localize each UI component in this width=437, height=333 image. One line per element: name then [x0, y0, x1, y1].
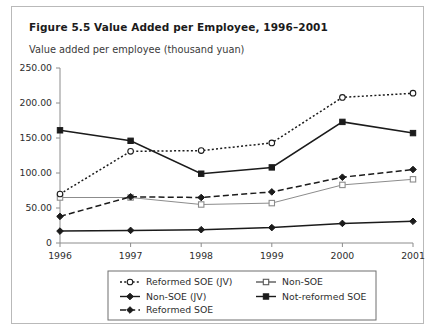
axes-group [56, 68, 413, 247]
series-non-soe [57, 177, 415, 208]
x-tick-label: 2000 [331, 250, 355, 261]
circle-open-marker [340, 95, 346, 101]
circle-open-marker [410, 90, 416, 96]
diamond-filled-marker [269, 224, 276, 231]
x-tick-label: 1996 [48, 250, 72, 261]
y-tick-label: 150.00 [19, 132, 52, 143]
diamond-filled-marker [410, 218, 417, 225]
square-filled-marker [410, 130, 415, 135]
circle-open-marker [57, 191, 63, 197]
x-tick-label: 1998 [189, 250, 213, 261]
square-open-marker [269, 200, 274, 205]
square-filled-marker [263, 294, 268, 299]
series-reformed-soe-jv [57, 90, 416, 196]
data-series-group [57, 90, 417, 234]
square-filled-marker [199, 171, 204, 176]
diamond-filled-marker [198, 194, 205, 201]
diamond-filled-marker [410, 166, 417, 173]
series-not-reformed-soe [57, 119, 415, 176]
series-non-soe-jv [57, 166, 417, 220]
series-line [60, 170, 413, 217]
y-tick-label: 100.00 [19, 167, 52, 178]
diamond-filled-marker [269, 189, 276, 196]
square-open-marker [410, 177, 415, 182]
circle-open-marker [198, 148, 204, 154]
circle-open-marker [269, 140, 275, 146]
x-tick-label: 2001 [401, 250, 425, 261]
legend-label: Non-SOE (JV) [146, 291, 206, 302]
x-tick-label: 1997 [119, 250, 143, 261]
legend-label: Not-reformed SOE [282, 291, 366, 302]
y-tick-label: 0 [46, 237, 52, 248]
series-reformed-soe [57, 218, 417, 234]
square-open-marker [199, 202, 204, 207]
diamond-filled-marker [57, 228, 64, 235]
legend-label: Non-SOE [282, 276, 323, 287]
square-filled-marker [340, 119, 345, 124]
series-line [60, 93, 413, 194]
series-line [60, 221, 413, 231]
chart-svg: 050.00100.00150.00200.00250.00 199619971… [12, 7, 425, 325]
square-filled-marker [269, 165, 274, 170]
legend-label: Reformed SOE [146, 304, 213, 315]
diamond-filled-marker [198, 226, 205, 233]
square-filled-marker [128, 138, 133, 143]
series-line [60, 179, 413, 204]
figure-container: Figure 5.5 Value Added per Employee, 199… [11, 6, 424, 324]
circle-open-marker [128, 149, 134, 155]
x-tick-label: 1999 [260, 250, 284, 261]
diamond-filled-marker [57, 213, 64, 220]
circle-open-marker [127, 279, 133, 285]
chart-legend: Reformed SOE (JV)Non-SOE (JV)Reformed SO… [108, 271, 376, 320]
y-tick-label: 50.00 [25, 202, 52, 213]
square-open-marker [340, 182, 345, 187]
diamond-filled-marker [339, 174, 346, 181]
square-open-marker [263, 279, 268, 284]
series-line [60, 122, 413, 174]
plot-area: 050.00100.00150.00200.00250.00 199619971… [12, 7, 425, 325]
x-axis-tick-labels: 199619971998199920002001 [48, 250, 425, 261]
diamond-filled-marker [339, 220, 346, 227]
diamond-filled-marker [127, 227, 134, 234]
y-tick-label: 250.00 [19, 62, 52, 73]
y-axis-tick-labels: 050.00100.00150.00200.00250.00 [19, 62, 52, 248]
y-tick-label: 200.00 [19, 97, 52, 108]
legend-label: Reformed SOE (JV) [146, 276, 232, 287]
square-filled-marker [57, 128, 62, 133]
